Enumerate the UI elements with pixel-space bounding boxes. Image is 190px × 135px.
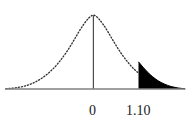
shaded-tail-area <box>139 62 186 89</box>
tick-label-z-value: 1.10 <box>0 104 190 118</box>
normal-distribution-chart: 0 1.10 <box>0 0 190 135</box>
bell-curve <box>6 15 139 89</box>
